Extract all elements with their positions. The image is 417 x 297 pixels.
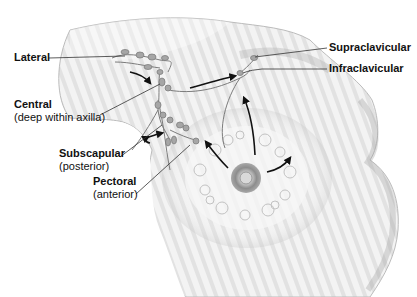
breast-lymph-drainage-diagram: Lateral Central (deep within axilla) Sub… [0, 0, 417, 297]
nipple [240, 172, 252, 184]
label-pectoral-note: (anterior) [93, 188, 138, 201]
label-lateral-name: Lateral [14, 51, 50, 64]
label-central-name: Central [14, 98, 105, 111]
label-lateral: Lateral [14, 51, 50, 64]
label-central: Central (deep within axilla) [14, 98, 105, 124]
label-central-note: (deep within axilla) [14, 111, 105, 124]
label-subscapular-note: (posterior) [59, 160, 125, 173]
label-subscapular: Subscapular (posterior) [59, 147, 125, 173]
label-supraclavicular-name: Supraclavicular [329, 41, 411, 54]
label-pectoral: Pectoral (anterior) [93, 175, 138, 201]
label-subscapular-name: Subscapular [59, 147, 125, 160]
label-infraclavicular: Infraclavicular [329, 62, 404, 75]
label-infraclavicular-name: Infraclavicular [329, 62, 404, 75]
label-supraclavicular: Supraclavicular [329, 41, 411, 54]
label-pectoral-name: Pectoral [93, 175, 138, 188]
